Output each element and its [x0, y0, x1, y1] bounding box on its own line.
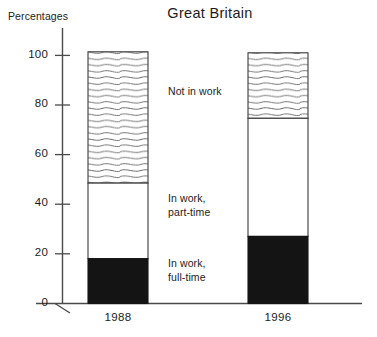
bar-1996-segment-full-time: [248, 236, 308, 303]
bar-1996-segment-part-time: [248, 118, 308, 236]
bar-1988-segment-part-time: [88, 183, 148, 259]
bar-1988-segment-full-time: [88, 259, 148, 304]
segment-label-part-time: In work, part-time: [168, 191, 210, 219]
y-tick-label-40: 40: [14, 196, 48, 208]
y-tick-label-20: 20: [14, 246, 48, 258]
chart-canvas: Great Britain Percentages: [0, 0, 377, 337]
y-tick-label-80: 80: [14, 97, 48, 109]
y-tick-label-100: 100: [14, 48, 48, 60]
bar-1996: [248, 53, 308, 304]
x-tick-label-1988: 1988: [83, 311, 153, 323]
y-tick-label-60: 60: [14, 147, 48, 159]
y-tick-label-0: 0: [14, 296, 48, 308]
bar-1988: [88, 52, 148, 304]
bar-1988-segment-not-in-work: [88, 52, 148, 183]
segment-label-not-in-work: Not in work: [168, 84, 222, 98]
segment-label-full-time: In work, full-time: [168, 256, 206, 284]
bar-1996-segment-not-in-work: [248, 53, 308, 119]
x-tick-label-1996: 1996: [243, 311, 313, 323]
plot-area: [0, 0, 377, 337]
